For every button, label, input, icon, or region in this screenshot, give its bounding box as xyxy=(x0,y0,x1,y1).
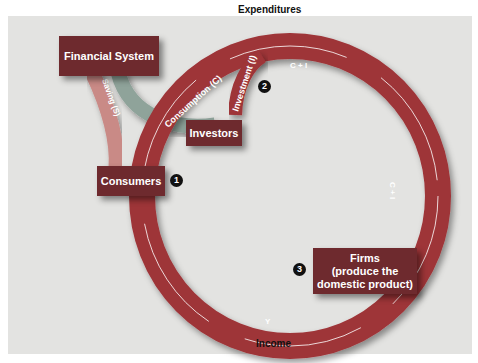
marker-3: 3 xyxy=(293,263,306,276)
c-plus-i-top-label: C + I xyxy=(290,61,307,70)
consumers-box: Consumers xyxy=(97,166,165,196)
investors-box: Investors xyxy=(186,120,242,146)
expenditures-label: Expenditures xyxy=(238,4,301,15)
y-label: Y xyxy=(265,317,271,326)
marker-2: 2 xyxy=(258,80,271,93)
income-label: Income xyxy=(256,338,291,349)
marker-1: 1 xyxy=(170,174,183,187)
c-plus-i-right-label: C + I xyxy=(388,182,397,199)
firms-desc-1: (produce the xyxy=(332,265,399,278)
firms-title: Firms xyxy=(350,252,380,265)
firms-desc-2: domestic product) xyxy=(317,278,413,291)
firms-box: Firms (produce the domestic product) xyxy=(313,248,417,294)
financial-system-box: Financial System xyxy=(59,36,159,76)
